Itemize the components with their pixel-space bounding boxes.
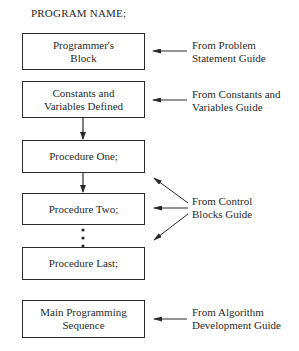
ellipsis-dot [81, 244, 84, 247]
connector-layer [0, 0, 299, 351]
ellipsis-dot [81, 236, 84, 239]
ellipsis-dot [81, 228, 84, 231]
source-arrow-control-to-procedure-one [154, 178, 188, 203]
source-arrow-control-to-procedure-last [154, 214, 188, 240]
